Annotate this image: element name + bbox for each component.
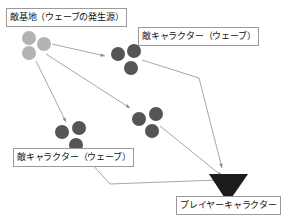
arrow-base-to-wave-middle	[46, 54, 130, 108]
enemy-wave-middle-right-unit	[145, 124, 159, 138]
label-enemy-wave-bottom: 敵キャラクター（ウェーブ）	[13, 148, 134, 167]
label-enemy-wave-top: 敵キャラクター（ウェーブ）	[138, 27, 259, 46]
arrow-wave-mid-to-player	[160, 126, 222, 176]
enemy-base-unit	[22, 46, 36, 60]
enemy-wave-top-unit	[111, 47, 125, 61]
arrow-base-to-wave-top	[52, 44, 105, 56]
game-design-diagram: 敵基地（ウェーブの発生源） 敵キャラクター（ウェーブ） 敵キャラクター（ウェーブ…	[0, 0, 295, 219]
unit-layer	[22, 31, 163, 152]
enemy-wave-middle-right-unit	[149, 107, 163, 121]
enemy-wave-lower-left-unit	[55, 125, 69, 139]
arrow-base-to-wave-left	[36, 61, 66, 122]
enemy-base-unit	[37, 37, 51, 51]
enemy-base-unit	[22, 31, 36, 45]
enemy-wave-lower-left-unit	[72, 121, 86, 135]
enemy-wave-top-unit	[127, 44, 141, 58]
enemy-wave-top-unit	[124, 61, 138, 75]
enemy-wave-middle-right-unit	[132, 112, 146, 126]
label-enemy-base: 敵基地（ウェーブの発生源）	[6, 8, 127, 27]
label-player-character: プレイヤーキャラクター	[176, 196, 281, 215]
